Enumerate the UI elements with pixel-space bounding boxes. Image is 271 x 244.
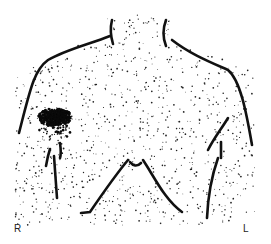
right-axilla-line-a [46, 149, 50, 166]
right-inner-arm-line [54, 156, 57, 198]
right-side-label: R [14, 223, 21, 234]
neck-right-line [111, 20, 113, 44]
neck-left-line [163, 20, 166, 46]
right-axilla-line-b [60, 143, 61, 158]
focal-uptake-hotspot [37, 108, 72, 138]
xiphoid-line [130, 162, 141, 166]
body-outline-drawing [0, 0, 271, 244]
left-side-label: L [243, 223, 249, 234]
chest-scintigram-figure: R L [0, 0, 271, 244]
left-costal-margin-line [143, 160, 182, 212]
left-shoulder-line [172, 40, 252, 145]
left-axilla-line-a [208, 118, 228, 150]
left-inner-arm-line [207, 158, 218, 218]
right-costal-margin-line [81, 160, 128, 213]
